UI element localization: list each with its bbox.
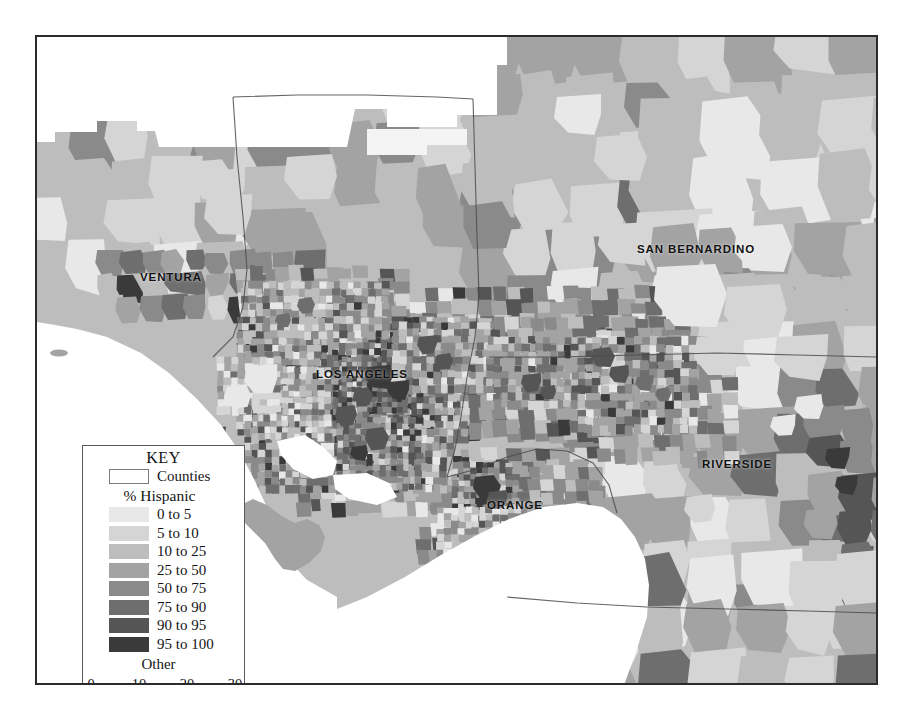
legend-label-counties: Counties [157,469,210,484]
legend-swatch-0 [109,507,149,522]
legend-row-class: 5 to 10 [83,524,244,543]
scale-bar: 0102030 Miles [83,676,244,686]
legend-swatch-2 [109,544,149,559]
legend-row-class: 0 to 5 [83,506,244,525]
legend-title: KEY [83,449,244,467]
legend-label-class: 10 to 25 [157,544,206,559]
map-legend: KEY Counties % Hispanic 0 to 55 to 1010 … [82,445,245,685]
legend-label-class: 25 to 50 [157,563,206,578]
legend-label-class: 75 to 90 [157,600,206,615]
legend-swatch-4 [109,581,149,596]
legend-row-counties: Counties [83,467,244,486]
legend-swatch-3 [109,563,149,578]
legend-row-class: 25 to 50 [83,561,244,580]
legend-class-list: 0 to 55 to 1010 to 2525 to 5050 to 7575 … [83,506,244,654]
legend-swatch-6 [109,618,149,633]
legend-label-class: 0 to 5 [157,507,191,522]
legend-swatch-counties [109,469,149,484]
legend-label-class: 50 to 75 [157,581,206,596]
map-page: VENTURASAN BERNARDINOLOS ANGELESRIVERSID… [0,0,913,717]
legend-swatch-1 [109,526,149,541]
scale-bar-ticks: 0102030 [91,676,236,686]
scale-tick-30: 30 [228,676,243,686]
legend-label-class: 95 to 100 [157,637,214,652]
legend-label-class: 90 to 95 [157,618,206,633]
map-frame: VENTURASAN BERNARDINOLOS ANGELESRIVERSID… [35,35,878,685]
legend-row-class: 10 to 25 [83,543,244,562]
legend-swatch-5 [109,600,149,615]
legend-row-class: 75 to 90 [83,598,244,617]
legend-subtitle: % Hispanic [83,487,244,505]
legend-label-other: Other [83,656,244,673]
legend-row-class: 90 to 95 [83,617,244,636]
legend-label-class: 5 to 10 [157,526,199,541]
scale-tick-20: 20 [180,676,195,686]
scale-tick-10: 10 [132,676,147,686]
legend-row-class: 50 to 75 [83,580,244,599]
scale-tick-0: 0 [87,676,94,686]
legend-row-class: 95 to 100 [83,635,244,654]
legend-swatch-7 [109,637,149,652]
